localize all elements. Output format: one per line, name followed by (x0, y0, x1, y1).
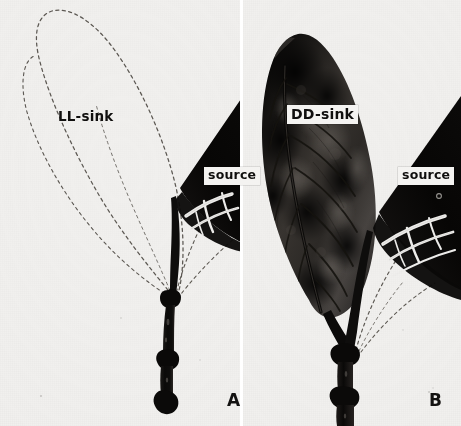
label-ll-sink: LL-sink (58, 110, 113, 124)
label-source-b: source (398, 167, 454, 185)
panel-letter-b: B (429, 390, 442, 410)
label-dd-sink: DD-sink (287, 105, 358, 124)
figure-root: LL-sink source DD-sink source A B (0, 0, 461, 426)
panel-letter-a: A (227, 390, 240, 410)
label-source-a: source (204, 167, 260, 185)
panel-b-image (243, 0, 461, 426)
panel-a (0, 0, 243, 426)
panel-b (243, 0, 461, 426)
panel-a-image (0, 0, 243, 426)
panel-divider (240, 0, 243, 426)
